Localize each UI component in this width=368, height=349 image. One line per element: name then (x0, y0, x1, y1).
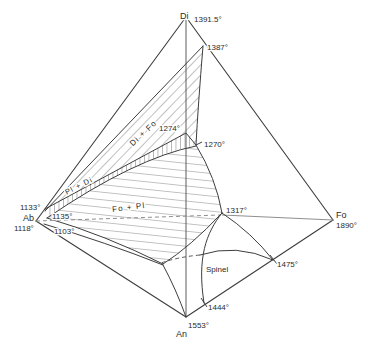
temp-1387: 1387° (207, 43, 228, 52)
temp-1133: 1133° (20, 203, 40, 212)
temp-1135: 1135° (52, 212, 72, 221)
region-label-spinel: Spinel (206, 265, 228, 274)
temp-1444: 1444° (208, 303, 229, 312)
spinel-rim-front (200, 250, 273, 260)
ab-melting-temp: 1118° (14, 224, 34, 233)
di-apex-label: Di (180, 11, 189, 21)
join-1317-fo (222, 215, 333, 220)
temp-1103: 1103° (54, 227, 74, 236)
phase-diagram-figure: Di 1391.5° Ab 1118° Fo 1890° 1553° An 13… (0, 0, 368, 349)
temp-1475: 1475° (277, 260, 298, 269)
temp-1270: 1270° (204, 140, 225, 149)
an-apex-label: An (176, 329, 187, 339)
tetrahedron-phase-diagram: Di 1391.5° Ab 1118° Fo 1890° 1553° An 13… (0, 0, 368, 349)
an-melting-temp: 1553° (188, 321, 209, 330)
temp-1274: 1274° (159, 124, 180, 133)
boundary-1317-1475 (222, 213, 273, 260)
leader-1270 (196, 142, 202, 145)
temp-1317: 1317° (226, 206, 247, 215)
fo-apex-label: Fo (336, 210, 347, 220)
fo-melting-temp: 1890° (336, 221, 357, 230)
di-melting-temp: 1391.5° (194, 15, 222, 24)
ab-apex-label: Ab (23, 213, 34, 223)
